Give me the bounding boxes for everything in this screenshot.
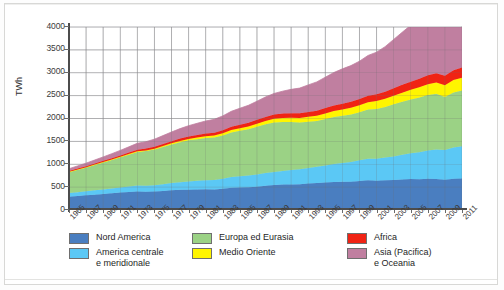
legend-item-label: Africa (374, 232, 397, 243)
legend-item[interactable]: Africa (347, 232, 432, 244)
x-tick-label: 2005 (410, 203, 428, 221)
legend-item[interactable]: Europa ed Eurasia (192, 232, 294, 244)
x-tick-label: 1971 (119, 203, 137, 221)
x-tick-label: 2011 (461, 203, 479, 221)
y-tick-mark (64, 72, 69, 73)
x-tick-label: 1991 (290, 203, 308, 221)
x-tick-label: 1995 (324, 203, 342, 221)
legend-swatch-nord-america (69, 233, 89, 244)
y-tick-mark (64, 140, 69, 141)
legend-item-label: Nord America (96, 232, 151, 243)
x-tick-label: 1997 (341, 203, 359, 221)
legend-item-label: Medio Oriente (219, 247, 276, 258)
legend-column: AfricaAsia (Pacifica) e Oceania (347, 232, 432, 271)
x-tick-label: 1987 (256, 203, 274, 221)
x-tick-label: 1993 (307, 203, 325, 221)
x-tick-label: 2003 (393, 203, 411, 221)
legend-item-label: America centrale e meridionale (96, 247, 164, 268)
x-tick-label: 2009 (444, 203, 462, 221)
legend-item[interactable]: Asia (Pacifica) e Oceania (347, 247, 432, 268)
x-tick-label: 1989 (273, 203, 291, 221)
y-tick-mark (64, 49, 69, 50)
legend-column: Europa ed EurasiaMedio Oriente (192, 232, 294, 262)
y-tick-mark (64, 163, 69, 164)
x-tick-label: 1967 (85, 203, 103, 221)
legend-item[interactable]: Nord America (69, 232, 164, 244)
x-tick-label: 2001 (376, 203, 394, 221)
legend-swatch-africa (347, 233, 367, 244)
x-tick-label: 1975 (153, 203, 171, 221)
legend-swatch-america-centrale-e-meridionale (69, 248, 89, 259)
x-tick-label: 2007 (427, 203, 445, 221)
x-tick-label: 1977 (171, 203, 189, 221)
x-tick-label: 1983 (222, 203, 240, 221)
y-tick-mark (64, 186, 69, 187)
x-tick-label: 1965 (68, 203, 86, 221)
x-tick-label: 1973 (136, 203, 154, 221)
figure-canvas: 05001000150020002500300035004000 TWh 196… (0, 0, 504, 290)
y-tick-mark (64, 118, 69, 119)
legend-swatch-asia-pacifica-e-oceania (347, 248, 367, 259)
legend-item-label: Asia (Pacifica) e Oceania (374, 247, 432, 268)
legend-swatch-medio-oriente (192, 248, 212, 259)
x-tick-label: 1999 (358, 203, 376, 221)
legend-item[interactable]: Medio Oriente (192, 247, 294, 259)
legend-item[interactable]: America centrale e meridionale (69, 247, 164, 268)
x-tick-label: 1979 (188, 203, 206, 221)
x-tick-label: 1985 (239, 203, 257, 221)
legend-item-label: Europa ed Eurasia (219, 232, 294, 243)
legend-column: Nord AmericaAmerica centrale e meridiona… (69, 232, 164, 271)
y-tick-mark (64, 209, 69, 210)
y-tick-mark (64, 26, 69, 27)
x-tick-label: 1981 (205, 203, 223, 221)
x-tick-label: 1969 (102, 203, 120, 221)
y-tick-mark (64, 95, 69, 96)
legend-bottom-rule (5, 279, 497, 280)
legend-swatch-europa-ed-eurasia (192, 233, 212, 244)
chart-legend: Nord AmericaAmerica centrale e meridiona… (14, 232, 488, 274)
